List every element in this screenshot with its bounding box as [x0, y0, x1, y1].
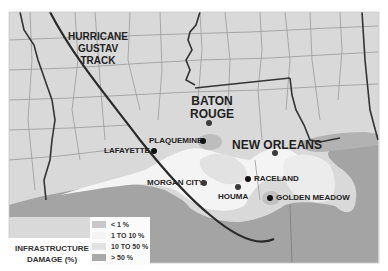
city-dot-morgan-city: [201, 180, 207, 186]
city-dot-raceland: [245, 176, 251, 182]
city-dot-new-orleans: [272, 150, 278, 156]
city-dot-houma: [235, 184, 241, 190]
track-label-line-2: GUSTAV: [68, 43, 128, 55]
city-dot-baton-rouge: [206, 120, 212, 126]
legend-label-1-10: 1 TO 10 %: [111, 232, 144, 239]
legend-panel: < 1 % 1 TO 10 % 10 TO 50 % > 50 %: [90, 217, 150, 265]
city-label-lafayette: LAFAYETTE: [104, 147, 150, 155]
legend-title-line-1: INFRASTRUCTURE: [12, 243, 92, 254]
legend-swatch-lt1: [92, 221, 106, 228]
legend-item-gt50: > 50 %: [92, 252, 133, 262]
city-label-raceland: RACELAND: [254, 175, 299, 183]
legend-swatch-10-50: [92, 243, 106, 250]
track-label-line-1: HURRICANE: [68, 31, 128, 43]
legend-label-gt50: > 50 %: [111, 254, 133, 261]
city-dot-plaquemine: [200, 138, 206, 144]
city-label-plaquemine: PLAQUEMINE: [149, 137, 202, 145]
city-dot-golden-meadow: [267, 195, 273, 201]
legend-item-1-10: 1 TO 10 %: [92, 230, 144, 240]
city-label-houma: HOUMA: [218, 193, 248, 201]
track-label: HURRICANE GUSTAV TRACK: [68, 31, 128, 67]
city-label-golden-meadow: GOLDEN MEADOW: [276, 194, 350, 202]
legend-swatch-1-10: [92, 232, 106, 239]
city-dot-lafayette: [151, 148, 157, 154]
legend-label-10-50: 10 TO 50 %: [111, 243, 148, 250]
legend-swatch-gt50: [92, 254, 106, 261]
city-label-baton-rouge: BATON ROUGE: [190, 95, 234, 121]
legend-title: INFRASTRUCTURE DAMAGE (%): [12, 243, 92, 265]
baton-rouge-line-2: ROUGE: [190, 108, 234, 121]
legend-label-lt1: < 1 %: [111, 221, 129, 228]
city-label-morgan-city: MORGAN CITY: [147, 179, 204, 187]
legend-title-line-2: DAMAGE (%): [12, 254, 92, 265]
track-label-line-3: TRACK: [68, 55, 128, 67]
legend-item-lt1: < 1 %: [92, 219, 129, 229]
city-label-new-orleans: NEW ORLEANS: [232, 139, 322, 151]
legend-item-10-50: 10 TO 50 %: [92, 241, 148, 251]
